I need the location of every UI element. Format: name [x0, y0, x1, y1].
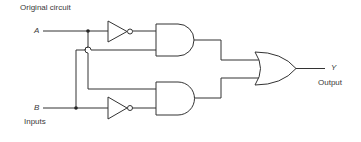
or-gate: [255, 52, 325, 85]
not-gate-b: [108, 97, 156, 119]
circuit-diagram: [0, 0, 361, 142]
wire-a: [43, 29, 156, 89]
and-gate-1: [156, 24, 259, 60]
not-gate-a: [108, 21, 156, 42]
wire-b: [43, 47, 156, 110]
and-gate-2: [156, 78, 259, 115]
